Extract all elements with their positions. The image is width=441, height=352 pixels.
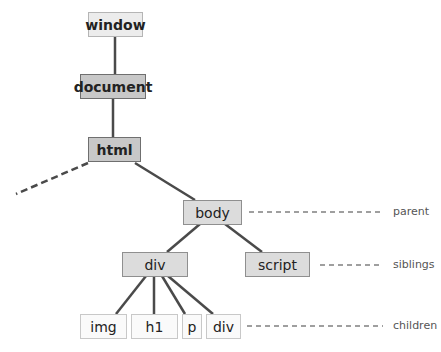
node-h1: h1 xyxy=(131,314,178,339)
legend-children: children xyxy=(393,319,437,332)
node-window: window xyxy=(88,12,143,37)
node-document: document xyxy=(80,74,146,99)
edge-div-img xyxy=(116,276,146,314)
edge-body-div xyxy=(167,224,200,252)
legend-parent: parent xyxy=(393,205,429,218)
node-div-child: div xyxy=(206,314,241,339)
node-p: p xyxy=(182,314,202,339)
node-img: img xyxy=(80,314,127,339)
node-script: script xyxy=(245,252,310,277)
edge-html-offscreen-dashed xyxy=(16,163,88,194)
legend-siblings: siblings xyxy=(393,258,435,271)
node-body: body xyxy=(183,200,242,225)
node-div: div xyxy=(122,252,188,277)
edges-layer xyxy=(0,0,441,352)
node-html: html xyxy=(88,137,141,162)
edge-html-body xyxy=(135,163,195,200)
edge-body-script xyxy=(225,224,262,252)
